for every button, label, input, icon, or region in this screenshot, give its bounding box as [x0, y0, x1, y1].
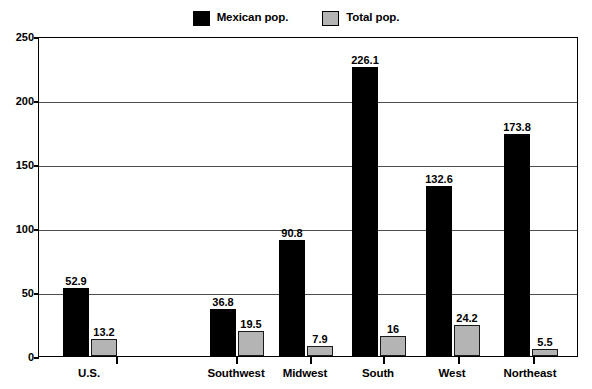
y-tick-mark: [34, 37, 39, 39]
x-tick-label-u-s-: U.S.: [78, 368, 100, 380]
y-tick-label: 50: [0, 288, 34, 299]
chart-legend: Mexican pop. Total pop.: [0, 7, 592, 29]
gridline: [39, 294, 577, 295]
x-tick-label-northeast: Northeast: [504, 368, 557, 380]
legend-item-mexican-pop: Mexican pop.: [193, 11, 289, 26]
gridline: [39, 102, 577, 103]
y-tick-mark: [34, 293, 39, 295]
bar-value-label: 90.8: [281, 228, 302, 239]
x-tick-label-southwest: Southwest: [207, 368, 264, 380]
bar-value-label: 19.5: [240, 319, 261, 330]
y-tick-label: 250: [0, 32, 34, 43]
y-tick-label: 200: [0, 96, 34, 107]
bar-west-total-pop: 24.2: [454, 325, 480, 356]
bar-value-label: 16: [387, 324, 399, 335]
x-tick-label-midwest: Midwest: [283, 368, 328, 380]
bar-value-label: 132.6: [425, 174, 453, 185]
gridline: [39, 230, 577, 231]
bar-value-label: 173.8: [503, 122, 531, 133]
legend-swatch-total-pop: [322, 11, 339, 26]
bar-southwest-mexican-pop: 36.8: [210, 309, 236, 356]
bar-value-label: 52.9: [65, 276, 86, 287]
y-tick-mark: [34, 165, 39, 167]
x-tick-label-west: West: [439, 368, 466, 380]
y-tick-label: 0: [0, 352, 34, 363]
legend-label-total-pop: Total pop.: [346, 12, 399, 24]
bar-midwest-mexican-pop: 90.8: [279, 240, 305, 356]
bar-south-mexican-pop: 226.1: [352, 67, 378, 356]
bar-value-label: 24.2: [456, 313, 477, 324]
bar-u-s--total-pop: 13.2: [91, 339, 117, 356]
x-tick-mark: [533, 357, 535, 364]
legend-item-total-pop: Total pop.: [322, 11, 399, 26]
bar-midwest-total-pop: 7.9: [307, 346, 333, 356]
x-tick-mark: [116, 357, 118, 364]
legend-label-mexican-pop: Mexican pop.: [217, 12, 289, 24]
bar-northeast-mexican-pop: 173.8: [504, 134, 530, 356]
y-tick-label: 100: [0, 224, 34, 235]
plot-area: 52.913.236.819.590.87.9226.116132.624.21…: [38, 37, 578, 357]
x-tick-mark: [310, 357, 312, 364]
y-tick-mark: [34, 229, 39, 231]
bar-value-label: 7.9: [312, 334, 327, 345]
x-tick-mark: [236, 357, 238, 364]
bar-south-total-pop: 16: [380, 336, 406, 356]
bar-west-mexican-pop: 132.6: [426, 186, 452, 356]
bar-value-label: 13.2: [93, 327, 114, 338]
x-tick-mark: [383, 357, 385, 364]
x-tick-label-south: South: [362, 368, 394, 380]
bar-northeast-total-pop: 5.5: [532, 349, 558, 356]
legend-swatch-mexican-pop: [193, 11, 210, 26]
y-axis: 050100150200250: [0, 37, 34, 357]
bar-value-label: 36.8: [212, 297, 233, 308]
bar-value-label: 5.5: [537, 337, 552, 348]
x-axis: U.S.SouthwestMidwestSouthWestNortheast: [38, 357, 578, 389]
y-tick-mark: [34, 101, 39, 103]
x-tick-mark: [458, 357, 460, 364]
gridline: [39, 166, 577, 167]
y-tick-label: 150: [0, 160, 34, 171]
bar-value-label: 226.1: [351, 55, 379, 66]
bar-u-s--mexican-pop: 52.9: [63, 288, 89, 356]
bar-southwest-total-pop: 19.5: [238, 331, 264, 356]
